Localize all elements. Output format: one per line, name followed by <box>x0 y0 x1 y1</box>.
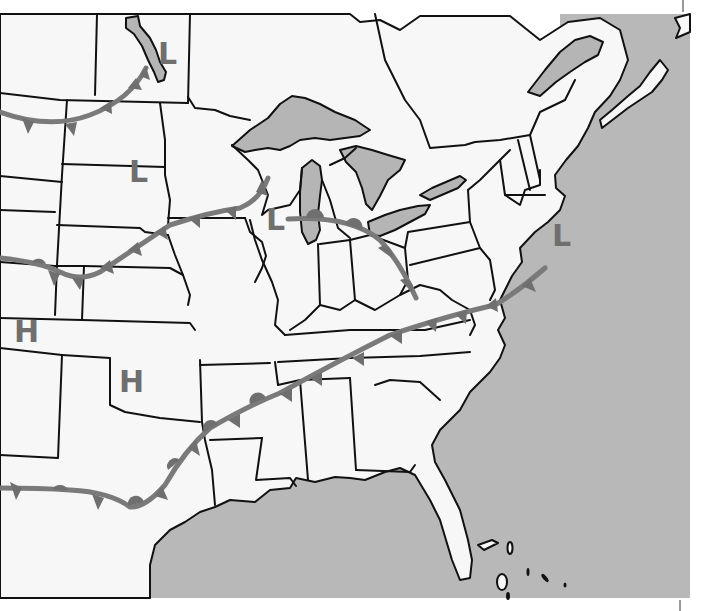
low-pressure-atlantic: L <box>552 218 571 253</box>
low-pressure-north-dakota: L <box>129 154 148 189</box>
low-pressure-manitoba: L <box>158 36 177 71</box>
high-pressure-oklahoma: H <box>119 364 144 399</box>
high-pressure-colorado: H <box>14 314 39 349</box>
weather-map: L L L L H H <box>0 0 706 611</box>
map-canvas: L L L L H H <box>0 0 706 611</box>
low-pressure-wisconsin: L <box>266 202 285 237</box>
lake-michigan <box>300 160 322 244</box>
